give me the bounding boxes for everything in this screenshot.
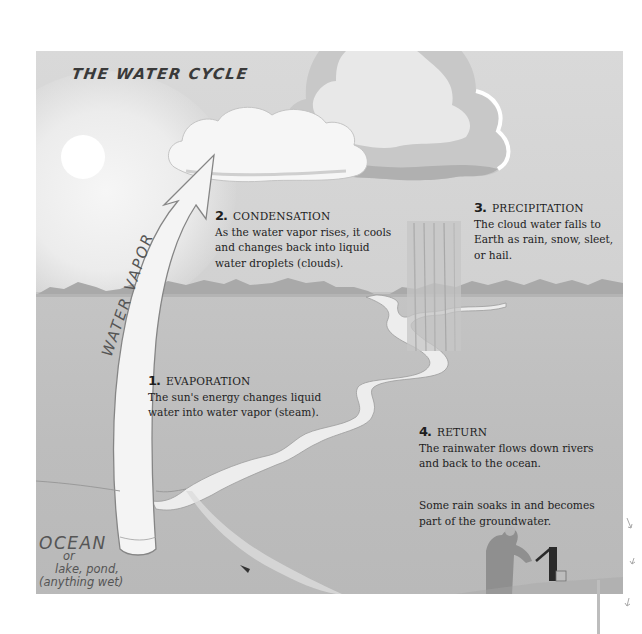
well-pipe-icon bbox=[597, 580, 600, 634]
groundwater-overlay bbox=[0, 0, 642, 634]
groundwater-arrows-icon bbox=[625, 518, 635, 606]
